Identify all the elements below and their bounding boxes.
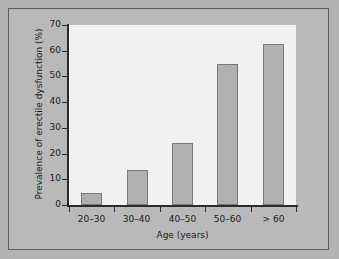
y-axis-tick — [62, 128, 67, 129]
x-axis-tick — [205, 207, 206, 212]
y-axis-tick — [62, 25, 67, 26]
figure-frame: 010203040506070 20–3030–4040–5050–60> 60… — [8, 8, 329, 250]
bar — [81, 193, 102, 205]
x-axis-tick — [296, 207, 297, 212]
y-axis-tick — [62, 179, 67, 180]
chart-figure: 010203040506070 20–3030–4040–5050–60> 60… — [0, 0, 339, 259]
bar — [172, 143, 193, 205]
bar — [217, 64, 238, 205]
bar — [127, 170, 148, 205]
y-axis-label: Prevalence of erectile dysfunction (%) — [34, 19, 44, 209]
bar — [263, 44, 284, 205]
x-axis-tick — [69, 207, 70, 212]
y-axis-tick — [62, 51, 67, 52]
x-axis-line — [67, 205, 298, 207]
y-axis-line — [67, 24, 69, 206]
y-axis-tick — [62, 102, 67, 103]
x-axis-tick-label: 20–30 — [69, 214, 114, 224]
x-axis-tick — [114, 207, 115, 212]
x-axis-tick — [251, 207, 252, 212]
y-axis-tick — [62, 76, 67, 77]
x-axis-tick-label: > 60 — [251, 214, 296, 224]
x-axis-tick-label: 40–50 — [160, 214, 205, 224]
x-axis-tick-label: 50–60 — [205, 214, 250, 224]
x-axis-label: Age (years) — [69, 230, 296, 240]
x-axis-tick — [160, 207, 161, 212]
y-axis-tick — [62, 205, 67, 206]
plot-area — [69, 25, 296, 205]
x-axis-tick-label: 30–40 — [114, 214, 159, 224]
y-axis-tick — [62, 154, 67, 155]
